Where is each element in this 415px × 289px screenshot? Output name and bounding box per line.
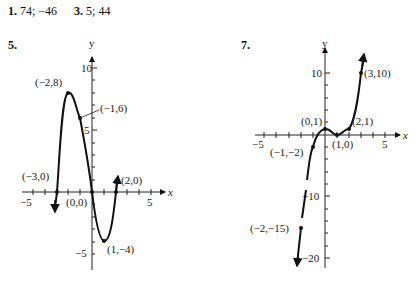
graph-7: y x 10 −10 −20 −5 5 (0,1) (2,1) (3,10) (… bbox=[250, 37, 408, 268]
point-label-1-0: (1,0) bbox=[332, 138, 353, 151]
curve-7 bbox=[297, 58, 364, 264]
x-tick-5: 5 bbox=[382, 138, 388, 150]
point-label-neg2-neg15: (−2,−15) bbox=[250, 222, 289, 235]
y-tick-10: 10 bbox=[81, 62, 93, 74]
point-label-2-1: (2,1) bbox=[352, 115, 373, 128]
point-label-3-10: (3,10) bbox=[364, 67, 391, 80]
x-tick-5: 5 bbox=[147, 196, 153, 208]
point-label-0-0: (0,0) bbox=[66, 196, 87, 209]
x-tick-neg5: −5 bbox=[252, 138, 264, 150]
graph-5: y x 10 5 −5 −5 5 (−2,8) (−1,6) (−3,0) (0… bbox=[20, 37, 173, 270]
point-label-neg1-neg2: (−1,−2) bbox=[270, 146, 304, 159]
graphs: y x 10 5 −5 −5 5 (−2,8) (−1,6) (−3,0) (0… bbox=[0, 0, 415, 289]
point-label-neg3-0: (−3,0) bbox=[22, 170, 50, 183]
y-axis-label: y bbox=[322, 37, 328, 49]
x-axis-label: x bbox=[167, 186, 173, 198]
x-axis-label: x bbox=[402, 129, 408, 141]
point-label-neg2-8: (−2,8) bbox=[35, 76, 63, 89]
y-tick-5: 5 bbox=[84, 124, 90, 136]
point-label-1-neg4: (1,−4) bbox=[107, 243, 135, 256]
y-tick-neg20: −20 bbox=[302, 252, 320, 264]
y-axis-label: y bbox=[89, 37, 95, 49]
y-tick-10: 10 bbox=[311, 67, 323, 79]
point-label-0-1: (0,1) bbox=[301, 115, 322, 128]
x-tick-neg5: −5 bbox=[20, 196, 32, 208]
y-tick-neg5: −5 bbox=[75, 247, 87, 259]
point-label-2-0: (2,0) bbox=[121, 174, 142, 187]
point-label-neg1-6: (−1,6) bbox=[100, 102, 128, 115]
